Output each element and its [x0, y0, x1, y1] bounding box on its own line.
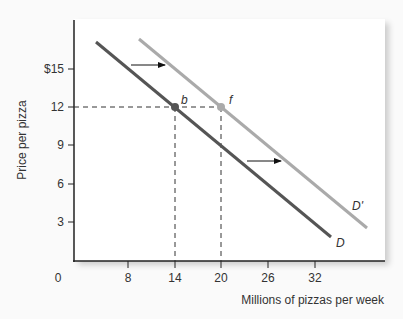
chart-svg: $15 12 9 6 3 0 8 14 20 26 32 Price per p… — [0, 0, 403, 319]
x-tick-8: 8 — [125, 271, 132, 285]
x-tick-26: 26 — [261, 271, 275, 285]
y-tick-3: 3 — [57, 215, 64, 229]
y-tick-12: 12 — [51, 100, 65, 114]
point-f — [217, 103, 225, 111]
origin-label: 0 — [55, 271, 62, 285]
point-f-label: f — [229, 93, 234, 107]
y-tick-15: $15 — [44, 62, 64, 76]
demand-curve-d-prime — [139, 39, 367, 228]
x-axis-title: Millions of pizzas per week — [241, 293, 385, 307]
y-axis-title: Price per pizza — [15, 100, 29, 180]
point-b — [171, 103, 179, 111]
demand-curve-d — [96, 42, 331, 237]
x-tick-32: 32 — [308, 271, 322, 285]
curve-d-label: D — [336, 236, 345, 250]
reference-lines — [74, 107, 221, 261]
y-ticks — [68, 69, 74, 222]
y-tick-9: 9 — [57, 138, 64, 152]
x-tick-20: 20 — [214, 271, 228, 285]
x-tick-14: 14 — [168, 271, 182, 285]
point-b-label: b — [181, 93, 188, 107]
x-ticks — [128, 261, 315, 268]
curve-d-prime-label: D' — [352, 199, 364, 213]
y-tick-6: 6 — [57, 177, 64, 191]
